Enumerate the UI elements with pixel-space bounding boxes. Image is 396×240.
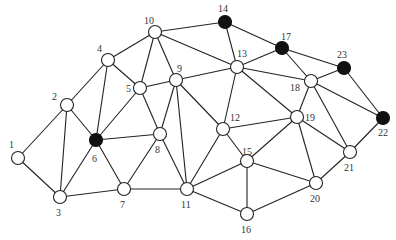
node-21 (344, 146, 357, 159)
edge-18-21 (311, 81, 350, 152)
edge-6-7 (96, 140, 124, 189)
edge-10-14 (155, 22, 225, 32)
edge-22-23 (344, 68, 383, 118)
node-label: 4 (97, 43, 102, 54)
edge-4-10 (108, 32, 155, 60)
node-label: 22 (378, 127, 388, 138)
node-label: 16 (241, 224, 251, 235)
node-13 (231, 61, 244, 74)
node-label: 13 (237, 48, 247, 59)
node-16 (241, 208, 254, 221)
node-label: 10 (144, 15, 154, 26)
edge-3-6 (60, 140, 96, 197)
node-label: 3 (56, 207, 61, 218)
node-14 (219, 16, 232, 29)
node-label: 12 (230, 112, 240, 123)
node-label: 15 (242, 146, 252, 157)
edge-8-11 (160, 134, 187, 189)
node-6 (90, 134, 103, 147)
edge-2-3 (60, 105, 67, 197)
graph-nodes (12, 16, 390, 221)
edge-9-11 (176, 80, 187, 189)
edge-5-10 (140, 32, 155, 88)
graph-edges (18, 22, 383, 214)
node-label: 19 (305, 112, 315, 123)
node-label: 23 (337, 49, 347, 60)
node-label: 6 (92, 153, 97, 164)
node-label: 20 (310, 193, 320, 204)
node-19 (291, 111, 304, 124)
edge-10-13 (155, 32, 237, 67)
node-label: 18 (290, 82, 300, 93)
node-12 (217, 123, 230, 136)
node-4 (102, 54, 115, 67)
edge-9-12 (176, 80, 223, 129)
edge-1-3 (18, 158, 60, 197)
edge-19-20 (297, 117, 316, 183)
node-label: 2 (52, 91, 57, 102)
node-17 (276, 42, 289, 55)
node-20 (310, 177, 323, 190)
edge-3-7 (60, 189, 124, 197)
edge-18-22 (311, 81, 383, 118)
edge-5-8 (140, 88, 160, 134)
node-8 (154, 128, 167, 141)
node-label: 7 (120, 199, 125, 210)
node-3 (54, 191, 67, 204)
edge-14-17 (225, 22, 282, 48)
edge-6-8 (96, 134, 160, 140)
edge-13-19 (237, 67, 297, 117)
node-11 (181, 183, 194, 196)
edge-11-16 (187, 189, 247, 214)
edge-7-8 (124, 134, 160, 189)
node-22 (377, 112, 390, 125)
node-10 (149, 26, 162, 39)
edge-15-20 (247, 161, 316, 183)
network-graph: 1234567891011121314151617181920212223 (0, 0, 396, 240)
node-label: 14 (218, 3, 228, 14)
edge-9-13 (176, 67, 237, 80)
node-23 (338, 62, 351, 75)
node-label: 8 (155, 144, 160, 155)
edge-1-2 (18, 105, 67, 158)
node-7 (118, 183, 131, 196)
node-18 (305, 75, 318, 88)
node-9 (170, 74, 183, 87)
node-1 (12, 152, 25, 165)
node-label: 17 (281, 31, 291, 42)
node-label: 5 (126, 83, 131, 94)
node-5 (134, 82, 147, 95)
node-label: 9 (177, 63, 182, 74)
edge-16-20 (247, 183, 316, 214)
node-label: 21 (344, 162, 354, 173)
edge-8-9 (160, 80, 176, 134)
node-label: 1 (9, 139, 14, 150)
node-label: 11 (181, 199, 191, 210)
node-2 (61, 99, 74, 112)
